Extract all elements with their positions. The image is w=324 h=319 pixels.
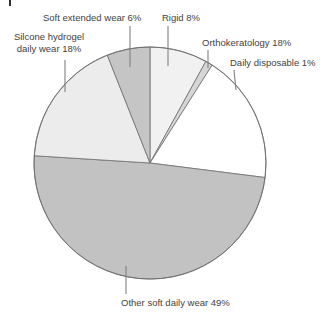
label-orthokeratology: Orthokeratology 18% xyxy=(202,37,291,49)
label-silicone-line2: daily wear 18% xyxy=(17,43,81,54)
label-rigid: Rigid 8% xyxy=(162,12,200,24)
label-soft-extended-wear: Soft extended wear 6% xyxy=(43,12,141,24)
label-silicone-line1: Silcone hydrogel xyxy=(14,31,84,42)
label-daily-disposable: Daily disposable 1% xyxy=(230,57,316,69)
label-silicone-hydrogel-daily-wear: Silcone hydrogel daily wear 18% xyxy=(0,31,98,54)
pie-slice-other-soft-daily-wear xyxy=(34,156,265,279)
label-other-soft-daily-wear: Other soft daily wear 49% xyxy=(121,297,230,309)
pie-chart-figure: Silcone hydrogel daily wear 18% Soft ext… xyxy=(0,0,324,319)
